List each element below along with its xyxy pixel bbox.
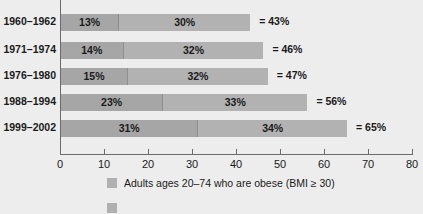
category-label: 1971–1974 [3, 43, 56, 55]
stacked-bar: 14%32% [61, 42, 263, 59]
bar-segment-second: 32% [123, 42, 264, 59]
segment-value-label: 30% [174, 17, 195, 28]
obesity-overweight-bar-chart: 01020304050607080 1960–196213%30%= 43%19… [0, 0, 423, 214]
legend-item-second-cropped [107, 203, 124, 213]
segment-value-label: 13% [79, 17, 100, 28]
x-tick [148, 149, 149, 155]
legend-item-obese: Adults ages 20–74 who are obese (BMI ≥ 3… [107, 177, 335, 189]
stacked-bar: 31%34% [61, 120, 347, 137]
bar-segment-second: 32% [127, 68, 268, 85]
bar-segment-obese: 15% [61, 68, 127, 85]
x-tick-label: 60 [318, 158, 330, 170]
bar-segment-obese: 31% [61, 120, 197, 137]
x-tick [236, 149, 237, 155]
category-label: 1976–1980 [3, 69, 56, 81]
legend-swatch-icon [107, 178, 117, 188]
total-label: = 43% [259, 15, 289, 27]
bar-segment-obese: 13% [61, 14, 118, 31]
x-tick-label: 10 [98, 158, 110, 170]
bar-segment-second: 34% [197, 120, 347, 137]
stacked-bar: 13%30% [61, 14, 250, 31]
x-tick-label: 0 [57, 158, 63, 170]
legend-swatch-icon [107, 203, 117, 213]
bar-row: 1971–197414%32%= 46% [0, 42, 423, 59]
bar-segment-second: 30% [118, 14, 250, 31]
total-label: = 46% [272, 43, 302, 55]
category-label: 1988–1994 [3, 95, 56, 107]
category-label: 1999–2002 [3, 121, 56, 133]
segment-value-label: 31% [119, 123, 140, 134]
x-tick [60, 149, 61, 155]
segment-value-label: 23% [101, 97, 122, 108]
bar-segment-second: 33% [162, 94, 307, 111]
segment-value-label: 34% [262, 123, 283, 134]
bar-row: 1999–200231%34%= 65% [0, 120, 423, 137]
x-tick [368, 149, 369, 155]
segment-value-label: 32% [187, 71, 208, 82]
x-tick-label: 50 [274, 158, 286, 170]
category-label: 1960–1962 [3, 15, 56, 27]
total-label: = 65% [356, 121, 386, 133]
segment-value-label: 14% [81, 45, 102, 56]
x-tick [192, 149, 193, 155]
stacked-bar: 23%33% [61, 94, 307, 111]
bar-segment-obese: 14% [61, 42, 123, 59]
segment-value-label: 15% [83, 71, 104, 82]
x-tick [324, 149, 325, 155]
plot-area: 01020304050607080 1960–196213%30%= 43%19… [0, 0, 423, 214]
bar-segment-obese: 23% [61, 94, 162, 111]
x-tick-label: 80 [406, 158, 418, 170]
x-tick [104, 149, 105, 155]
x-tick-label: 30 [186, 158, 198, 170]
total-label: = 56% [316, 95, 346, 107]
x-tick-label: 70 [362, 158, 374, 170]
segment-value-label: 33% [225, 97, 246, 108]
legend-label: Adults ages 20–74 who are obese (BMI ≥ 3… [124, 177, 335, 189]
segment-value-label: 32% [183, 45, 204, 56]
total-label: = 47% [277, 69, 307, 81]
bar-row: 1960–196213%30%= 43% [0, 14, 423, 31]
x-tick-label: 20 [142, 158, 154, 170]
stacked-bar: 15%32% [61, 68, 268, 85]
x-tick-label: 40 [230, 158, 242, 170]
bar-row: 1988–199423%33%= 56% [0, 94, 423, 111]
x-tick [280, 149, 281, 155]
x-tick [412, 149, 413, 155]
bar-row: 1976–198015%32%= 47% [0, 68, 423, 85]
